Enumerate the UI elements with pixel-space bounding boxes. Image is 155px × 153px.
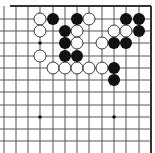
black-stone — [59, 50, 71, 62]
star-point — [38, 41, 42, 45]
white-stone — [83, 13, 95, 25]
black-stone — [120, 37, 132, 49]
black-stone — [108, 37, 120, 49]
black-stone — [120, 13, 132, 25]
black-stone — [47, 13, 59, 25]
white-stone — [34, 13, 46, 25]
go-board[interactable] — [0, 0, 155, 153]
white-stone — [96, 62, 108, 74]
black-stone — [133, 25, 145, 37]
white-stone — [83, 62, 95, 74]
white-stone — [59, 62, 71, 74]
white-stone — [34, 25, 46, 37]
white-stone — [96, 37, 108, 49]
white-stone — [47, 62, 59, 74]
black-stone — [71, 13, 83, 25]
black-stone — [108, 74, 120, 86]
white-stone — [120, 25, 132, 37]
white-stone — [71, 25, 83, 37]
white-stone — [108, 25, 120, 37]
black-stone — [59, 25, 71, 37]
black-stone — [59, 37, 71, 49]
white-stone — [71, 37, 83, 49]
white-stone — [71, 62, 83, 74]
black-stone — [133, 13, 145, 25]
black-stone — [71, 50, 83, 62]
star-point — [38, 115, 42, 119]
star-point — [112, 115, 116, 119]
black-stone — [108, 62, 120, 74]
white-stone — [34, 50, 46, 62]
